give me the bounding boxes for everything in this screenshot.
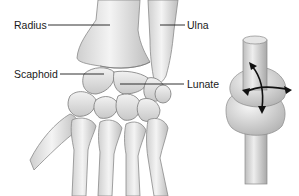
scaphoid-bone bbox=[83, 68, 115, 94]
metacarpal-4 bbox=[125, 122, 147, 196]
metacarpal-bones bbox=[30, 114, 168, 196]
radius-bone bbox=[77, 0, 150, 68]
ellipsoid-joint-model bbox=[226, 36, 286, 184]
ulna-bone bbox=[148, 0, 178, 83]
scaphoid-label: Scaphoid bbox=[14, 68, 58, 80]
pisiform-bone bbox=[155, 85, 171, 103]
hamate-bone bbox=[137, 98, 160, 121]
metacarpal-3 bbox=[98, 120, 122, 196]
metacarpal-2 bbox=[71, 118, 96, 196]
trapezoid-bone bbox=[94, 97, 118, 119]
metacarpal-5 bbox=[147, 118, 169, 196]
wrist-anatomy-figure: Radius Ulna Scaphoid Lunate bbox=[0, 0, 299, 196]
lunate-label: Lunate bbox=[187, 78, 219, 90]
capitate-bone bbox=[116, 94, 140, 120]
lunate-bone bbox=[113, 71, 148, 94]
radius-label: Radius bbox=[14, 19, 47, 31]
trapezium-bone bbox=[68, 92, 96, 117]
ulna-label: Ulna bbox=[187, 19, 209, 31]
